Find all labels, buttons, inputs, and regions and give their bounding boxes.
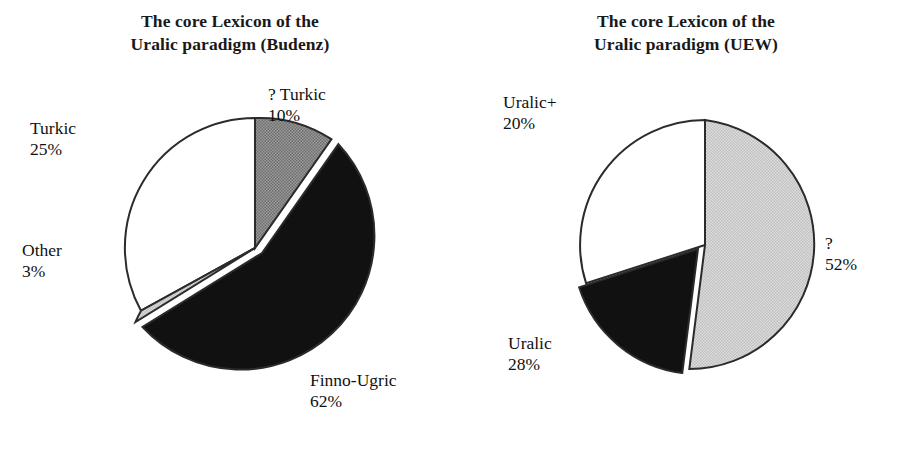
- chart-title-budenz-line2: Uralic paradigm (Budenz): [0, 33, 460, 56]
- slice-label-uralic-plus-pct: 20%: [503, 113, 557, 134]
- slice-label-finno-ugric-name: Finno-Ugric: [310, 370, 397, 391]
- pie-chart-budenz: [110, 100, 410, 400]
- slice-label-unknown-name: ?: [825, 233, 857, 254]
- slice-label-unknown-pct: 52%: [825, 254, 857, 275]
- pie-chart-uew: [565, 100, 855, 390]
- slice-label-uralic-plus: Uralic+ 20%: [503, 92, 557, 134]
- slice-label-q-turkic: ? Turkic 10%: [268, 84, 326, 126]
- slice-label-turkic: Turkic 25%: [30, 118, 120, 160]
- slice-label-uralic: Uralic 28%: [508, 333, 552, 375]
- slice-label-q-turkic-pct: 10%: [268, 105, 326, 126]
- chart-title-uew: The core Lexicon of the Uralic paradigm …: [460, 10, 912, 56]
- slice-label-finno-ugric: Finno-Ugric 62%: [310, 370, 397, 412]
- chart-panel-budenz: The core Lexicon of the Uralic paradigm …: [0, 0, 460, 454]
- figure-container: The core Lexicon of the Uralic paradigm …: [0, 0, 912, 454]
- slice-label-other-name: Other: [22, 240, 98, 261]
- chart-panel-uew: The core Lexicon of the Uralic paradigm …: [460, 0, 912, 454]
- chart-title-budenz-line1: The core Lexicon of the: [0, 10, 460, 33]
- slice-label-turkic-name: Turkic: [30, 118, 120, 139]
- chart-title-uew-line1: The core Lexicon of the: [460, 10, 912, 33]
- pie-uew-svg: [565, 100, 855, 390]
- slice-label-turkic-pct: 25%: [30, 139, 120, 160]
- slice-label-uralic-pct: 28%: [508, 354, 552, 375]
- slice-label-finno-ugric-pct: 62%: [310, 391, 397, 412]
- chart-title-budenz: The core Lexicon of the Uralic paradigm …: [0, 10, 460, 56]
- pie-budenz-svg: [110, 100, 410, 400]
- pie-slice-unknown: [689, 120, 814, 369]
- slice-label-other: Other 3%: [22, 240, 98, 282]
- slice-label-uralic-plus-name: Uralic+: [503, 92, 557, 113]
- slice-label-other-pct: 3%: [22, 261, 98, 282]
- chart-title-uew-line2: Uralic paradigm (UEW): [460, 33, 912, 56]
- slice-label-q-turkic-name: ? Turkic: [268, 84, 326, 105]
- slice-label-uralic-name: Uralic: [508, 333, 552, 354]
- slice-label-unknown: ? 52%: [825, 233, 857, 275]
